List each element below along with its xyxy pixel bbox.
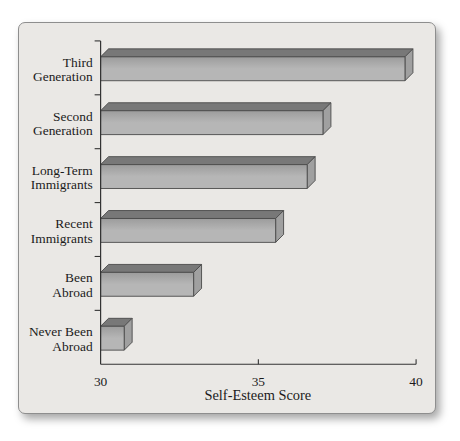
- bar-front-face: [101, 165, 308, 189]
- bar-group-been-abroad: BeenAbroad: [52, 264, 201, 299]
- category-label-long-term-immigrants: Long-TermImmigrants: [31, 163, 93, 192]
- category-label-been-abroad: BeenAbroad: [52, 270, 93, 299]
- x-tick-label: 30: [94, 374, 108, 389]
- bar-front-face: [101, 272, 194, 296]
- bar-group-long-term-immigrants: Long-TermImmigrants: [31, 157, 315, 192]
- category-label-never-been-abroad: Never BeenAbroad: [29, 324, 93, 353]
- bar-group-never-been-abroad: Never BeenAbroad: [29, 318, 132, 353]
- x-axis-title: Self-Esteem Score: [204, 387, 311, 403]
- bar-top-face: [101, 103, 331, 111]
- x-tick-label: 40: [409, 374, 423, 389]
- bar-group-third-generation: ThirdGeneration: [33, 49, 413, 84]
- bar-front-face: [101, 57, 405, 81]
- bar-top-face: [101, 157, 316, 165]
- bar-front-face: [101, 218, 276, 242]
- bar-top-face: [101, 264, 202, 272]
- bar-top-face: [101, 211, 284, 219]
- category-label-third-generation: ThirdGeneration: [33, 55, 93, 84]
- bar-front-face: [101, 111, 323, 135]
- category-label-second-generation: SecondGeneration: [33, 109, 93, 138]
- bar-chart-svg: Self-Esteem Score ThirdGenerationSecondG…: [19, 23, 435, 413]
- bar-front-face: [101, 326, 125, 350]
- bar-group-recent-immigrants: RecentImmigrants: [31, 211, 284, 246]
- category-label-recent-immigrants: RecentImmigrants: [31, 216, 93, 245]
- chart-card: Self-Esteem Score ThirdGenerationSecondG…: [18, 22, 436, 414]
- bar-group-second-generation: SecondGeneration: [33, 103, 331, 138]
- x-tick-label: 35: [252, 374, 266, 389]
- bar-top-face: [101, 49, 413, 57]
